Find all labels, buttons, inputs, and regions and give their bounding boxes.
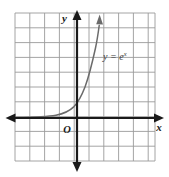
curve-equation-base: y = e	[102, 51, 124, 62]
y-axis-label: y	[60, 12, 67, 24]
curve-equation-label: y = ex	[102, 50, 127, 62]
exponential-graph-figure: y x O y = ex	[0, 0, 169, 177]
curve-equation-exponent: x	[123, 50, 127, 57]
x-axis-label: x	[155, 121, 162, 133]
coordinate-plane: y x O y = ex	[0, 0, 169, 177]
origin-label: O	[63, 124, 71, 135]
